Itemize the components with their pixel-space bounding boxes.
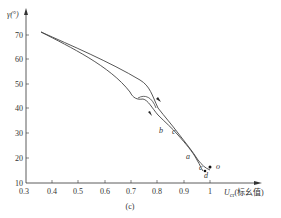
x-tick-label: 0.8 xyxy=(152,187,162,196)
label-b: b xyxy=(159,126,163,135)
y-tick-label: 40 xyxy=(15,104,23,113)
y-tick-label: 70 xyxy=(15,31,23,40)
label-a: a xyxy=(186,152,190,161)
y-ticks xyxy=(26,35,29,158)
label-o: o xyxy=(216,162,220,171)
y-axis-title: γ(°) xyxy=(7,10,19,19)
x-tick-label: 0.3 xyxy=(19,187,29,196)
x-tick-label: 0.9 xyxy=(179,187,189,196)
y-tick-label: 60 xyxy=(15,55,23,64)
y-axis-arrow-icon xyxy=(24,8,28,15)
x-tick-label: 0.4 xyxy=(47,187,57,196)
lower-branch-curve xyxy=(41,32,203,171)
x-tick-label: 1 xyxy=(208,187,212,196)
x-tick-label: 0.7 xyxy=(126,187,136,196)
x-axis-title: Ucr(标幺值) xyxy=(224,187,264,198)
y-tick-label: 50 xyxy=(15,80,23,89)
arrow-icon xyxy=(148,111,152,116)
arrow-icon xyxy=(156,97,161,102)
point-o-marker xyxy=(209,166,212,169)
upper-branch-curve xyxy=(41,32,210,170)
y-tick-label: 30 xyxy=(15,129,23,138)
figure-caption: (c) xyxy=(126,202,135,211)
x-tick-label: 0.6 xyxy=(100,187,110,196)
x-ticks xyxy=(52,180,210,183)
x-tick-label: 0.5 xyxy=(73,187,83,196)
label-c: c xyxy=(172,127,176,136)
chart: 10 20 30 40 50 60 70 0.3 0.4 0.5 0.6 0.7… xyxy=(0,0,281,218)
label-c2: c xyxy=(199,163,203,172)
x-axis-arrow-icon xyxy=(254,181,262,185)
label-d: d xyxy=(204,171,209,180)
y-tick-label: 20 xyxy=(15,154,23,163)
